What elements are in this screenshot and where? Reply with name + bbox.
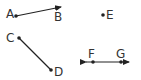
diagram-drawing xyxy=(0,0,141,80)
geometry-diagram: A B E C D F G xyxy=(0,0,141,80)
point-e-dot xyxy=(101,13,105,17)
label-b: B xyxy=(54,11,62,23)
segment-cd xyxy=(17,36,53,72)
point-a-dot xyxy=(14,14,18,18)
point-d-dot xyxy=(49,68,53,72)
label-g: G xyxy=(116,48,125,60)
label-d: D xyxy=(54,66,63,78)
label-a: A xyxy=(6,8,14,20)
point-c-dot xyxy=(17,36,21,40)
label-e: E xyxy=(106,9,114,21)
label-f: F xyxy=(88,48,95,60)
label-c: C xyxy=(6,32,14,44)
